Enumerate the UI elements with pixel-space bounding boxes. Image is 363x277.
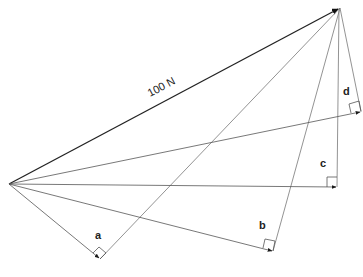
component-c-arrow: [9, 184, 336, 187]
resultant-force-arrow: [9, 9, 338, 184]
component-d-label: d: [343, 85, 350, 97]
component-d-arrow: [9, 112, 360, 184]
right-angle-a-icon: [93, 247, 106, 259]
component-a-label: a: [95, 229, 102, 241]
perpendicular-a-line: [100, 8, 340, 259]
perpendicular-b-line: [273, 8, 340, 251]
right-angle-d-icon: [349, 101, 361, 113]
resultant-force-label: 100 N: [145, 74, 177, 98]
force-component-diagram: 100 N a b c d: [0, 0, 363, 277]
right-angle-c-icon: [327, 177, 337, 187]
component-c-label: c: [320, 157, 326, 169]
component-b-label: b: [259, 219, 266, 231]
perpendicular-c-line: [337, 8, 339, 187]
component-b-arrow: [9, 184, 272, 251]
